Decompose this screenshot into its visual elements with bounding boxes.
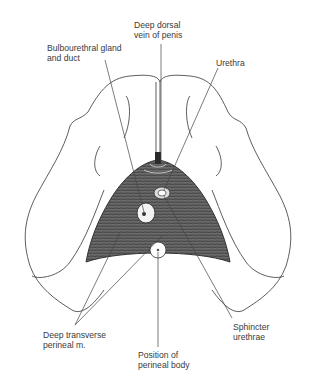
- label-deep-transverse-perineal: Deep transverse perineal m.: [43, 330, 106, 350]
- urethra-opening: [154, 187, 170, 199]
- label-urethra: Urethra: [216, 58, 245, 68]
- label-perineal-body: Position of perineal body: [138, 350, 190, 370]
- label-deep-dorsal-vein: Deep dorsal vein of penis: [134, 20, 182, 40]
- label-sphincter-urethrae: Sphincter urethrae: [233, 322, 269, 342]
- label-bulbourethral-gland: Bulbourethral gland and duct: [47, 43, 122, 63]
- bulbourethral-gland: [137, 203, 155, 223]
